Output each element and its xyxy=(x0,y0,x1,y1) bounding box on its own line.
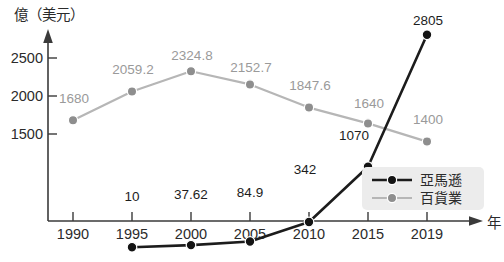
data-label-dept-2010: 1847.6 xyxy=(289,78,330,93)
data-label-dept-2015: 1640 xyxy=(354,96,384,111)
y-axis-arrow xyxy=(43,29,53,43)
data-point xyxy=(422,137,431,146)
x-tick-label-2019: 2019 xyxy=(411,226,443,242)
data-label-dept-1990: 1680 xyxy=(59,91,89,106)
data-label-amazon-2000: 37.62 xyxy=(174,187,208,202)
data-point xyxy=(304,217,314,227)
data-point xyxy=(186,67,195,76)
x-axis-unit-label: 年 xyxy=(487,215,501,231)
x-tick-label-2010: 2010 xyxy=(293,226,325,242)
data-point xyxy=(245,237,255,247)
data-point xyxy=(422,30,432,40)
data-label-dept-2005: 2152.7 xyxy=(230,60,271,75)
data-point xyxy=(127,242,137,252)
line-chart-canvas: 億（美元） 2500 2000 1500 1990 1995 2000 xyxy=(0,0,504,262)
legend-marker-department-store xyxy=(387,193,396,202)
chart-figure: 億（美元） 2500 2000 1500 1990 1995 2000 xyxy=(0,0,504,262)
data-label-amazon-2005: 84.9 xyxy=(237,185,263,200)
x-tick-label-1990: 1990 xyxy=(57,226,89,242)
series-department-store: 1680 2059.2 2324.8 2152.7 1847.6 1640 14… xyxy=(59,48,443,146)
y-tick-label-2000: 2000 xyxy=(11,88,43,104)
data-point xyxy=(245,80,254,89)
legend-marker-amazon xyxy=(387,175,396,184)
data-label-amazon-2010: 342 xyxy=(294,162,317,177)
x-tick-label-1995: 1995 xyxy=(116,226,148,242)
legend[interactable]: 亞馬遜 百貨業 xyxy=(362,167,484,210)
x-axis: 1990 1995 2000 2005 2010 2015 2019 年 xyxy=(48,212,501,242)
data-label-dept-2000: 2324.8 xyxy=(171,48,212,63)
y-axis-unit-label: 億（美元） xyxy=(14,7,84,23)
data-label-amazon-1995: 10 xyxy=(124,189,139,204)
x-tick-label-2015: 2015 xyxy=(352,226,384,242)
x-tick-label-2000: 2000 xyxy=(175,226,207,242)
data-point xyxy=(186,240,196,250)
y-tick-label-2500: 2500 xyxy=(11,50,43,66)
data-point xyxy=(363,119,372,128)
data-label-amazon-2019: 2805 xyxy=(413,13,443,28)
legend-label-department-store: 百貨業 xyxy=(420,190,462,206)
y-axis: 2500 2000 1500 xyxy=(11,29,57,221)
data-label-dept-1995: 2059.2 xyxy=(112,62,153,77)
legend-label-amazon: 亞馬遜 xyxy=(420,172,462,188)
data-label-amazon-2015: 1070 xyxy=(339,128,369,143)
data-point xyxy=(68,116,77,125)
data-point xyxy=(127,87,136,96)
data-point xyxy=(304,103,313,112)
y-tick-label-1500: 1500 xyxy=(11,126,43,142)
data-label-dept-2019: 1400 xyxy=(413,112,443,127)
x-axis-arrow xyxy=(469,216,483,226)
